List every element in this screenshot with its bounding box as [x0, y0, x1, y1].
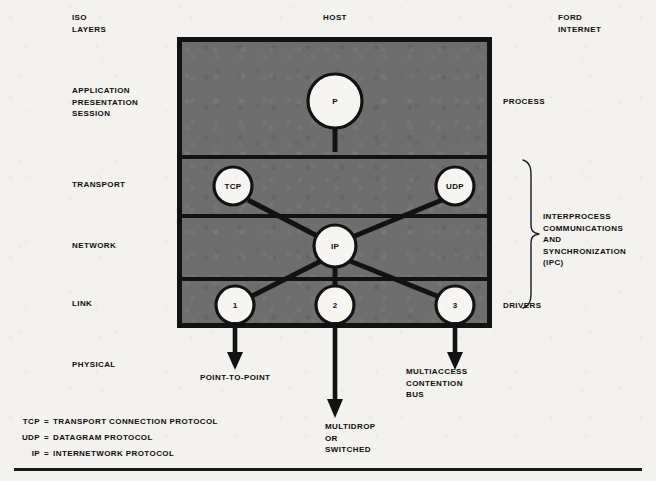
legend-row: TCP = TRANSPORT CONNECTION PROTOCOL [18, 414, 218, 430]
media-label-multidrop: MULTIDROP OR SWITCHED [325, 421, 376, 456]
right-label-ipc: INTERPROCESS COMMUNICATIONS AND SYNCHRON… [543, 211, 626, 269]
protocol-legend: TCP = TRANSPORT CONNECTION PROTOCOL UDP … [18, 414, 218, 462]
node-udp: UDP [436, 167, 474, 205]
node-driver3: 3 [436, 286, 474, 324]
node-driver1-label: 1 [233, 301, 238, 310]
node-driver3-label: 3 [453, 301, 458, 310]
legend-abbr: UDP [18, 430, 40, 446]
bottom-rule [14, 468, 642, 471]
iso-layer-label-transport: TRANSPORT [72, 179, 125, 191]
node-tcp: TCP [214, 167, 252, 205]
node-driver1: 1 [216, 286, 254, 324]
media-label-point-to-point: POINT-TO-POINT [200, 372, 270, 384]
link-ip-to-driver1 [248, 259, 325, 298]
header-host: HOST [275, 12, 395, 24]
node-ip-label: IP [331, 242, 340, 251]
right-label-drivers: DRIVERS [503, 300, 541, 312]
iso-layer-label-application: APPLICATION PRESENTATION SESSION [72, 85, 138, 120]
arrow-point-to-point [227, 322, 243, 370]
iso-layer-label-link: LINK [72, 298, 92, 310]
legend-abbr: TCP [18, 414, 40, 430]
iso-layer-label-network: NETWORK [72, 240, 116, 252]
link-ip-to-driver3 [345, 259, 442, 298]
node-tcp-label: TCP [225, 182, 242, 191]
link-tcp-to-ip [248, 200, 325, 240]
legend-equals: = [40, 430, 53, 446]
node-ip: IP [314, 225, 356, 267]
node-process-label: P [332, 97, 338, 106]
diagram-page: ISO LAYERS HOST FORD INTERNET APPLICATIO… [0, 0, 656, 481]
iso-layer-label-physical: PHYSICAL [72, 359, 116, 371]
arrow-multidrop [327, 322, 343, 418]
legend-equals: = [40, 414, 53, 430]
node-process: P [308, 74, 362, 128]
header-iso-layers: ISO LAYERS [72, 12, 106, 35]
node-udp-label: UDP [446, 182, 464, 191]
ipc-brace [523, 160, 539, 308]
node-driver2: 2 [316, 286, 354, 324]
arrow-multiaccess [447, 322, 463, 370]
link-udp-to-ip [345, 200, 442, 240]
media-label-multiaccess: MULTIACCESS CONTENTION BUS [406, 366, 468, 401]
legend-expansion: INTERNETWORK PROTOCOL [53, 446, 174, 462]
legend-expansion: DATAGRAM PROTOCOL [53, 430, 153, 446]
legend-abbr: IP [18, 446, 40, 462]
right-label-process: PROCESS [503, 96, 545, 108]
legend-expansion: TRANSPORT CONNECTION PROTOCOL [53, 414, 218, 430]
legend-row: UDP = DATAGRAM PROTOCOL [18, 430, 218, 446]
legend-equals: = [40, 446, 53, 462]
header-ford-internet: FORD INTERNET [558, 12, 601, 35]
legend-row: IP = INTERNETWORK PROTOCOL [18, 446, 218, 462]
node-driver2-label: 2 [333, 301, 338, 310]
